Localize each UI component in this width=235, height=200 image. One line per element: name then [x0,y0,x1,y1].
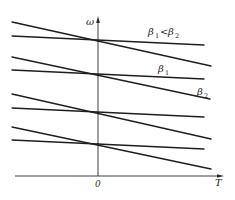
omega-vs-T-diagram: ω T 0 β 1 < β 2 β 1 β 2 [0,0,235,200]
intersection-point-3 [97,112,99,114]
subscript-2: 2 [175,32,179,40]
subscript-1: 1 [165,69,169,77]
intersection-point-1 [97,40,99,42]
x-axis-label: T [215,177,223,188]
intersection-point-4 [97,143,99,145]
y-axis-arrow-icon [96,16,100,23]
beta1-label: β 1 [157,63,169,77]
characteristic-lines [12,22,211,169]
subscript-1: 1 [155,32,159,40]
beta-symbol: β [196,86,203,97]
beta-comparison-label: β 1 < β 2 [147,26,179,40]
beta-symbol: β [157,63,164,74]
beta-symbol: β [167,26,174,37]
beta-symbol: β [147,26,154,37]
y-axis-label: ω [86,16,94,27]
subscript-2: 2 [204,92,208,100]
intersection-point-2 [97,74,99,76]
origin-label: 0 [95,179,101,189]
